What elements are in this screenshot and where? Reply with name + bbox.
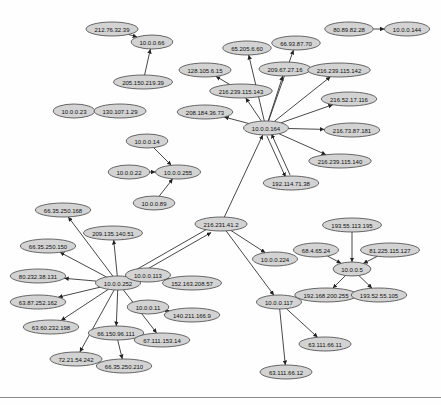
node-193-52-55-105[interactable]: 193.52.55.105 xyxy=(351,288,407,302)
node-label: 10.0.0.164 xyxy=(252,126,281,132)
node-label: 140.211.166.9 xyxy=(173,313,212,319)
node-label: 212.76.32.39 xyxy=(94,27,130,33)
edge-10-0-0-164-to-216-239-115-143 xyxy=(246,98,262,121)
node-label: 209.67.27.16 xyxy=(267,67,303,73)
node-63-60-232-198[interactable]: 63.60.232.198 xyxy=(23,320,79,334)
node-80-89-82-28[interactable]: 80.89.82.28 xyxy=(325,22,374,36)
edge-216-239-115-143-to-128-105-6-15 xyxy=(216,76,230,84)
node-label: 10.0.0.22 xyxy=(116,170,142,176)
edge-10-0-0-252-to-66-35-250-150 xyxy=(60,252,107,277)
edge-10-0-0-89-to-10-0-0-255 xyxy=(159,179,173,196)
node-10-0-0-113[interactable]: 10.0.0.113 xyxy=(126,268,171,282)
node-216-239-115-140[interactable]: 216.239.115.140 xyxy=(309,154,372,168)
node-80-232-38-131[interactable]: 80.232.38.131 xyxy=(10,269,66,283)
node-10-0-0-5[interactable]: 10.0.0.5 xyxy=(333,262,371,276)
node-208-184-36-73[interactable]: 208.184.36.73 xyxy=(177,105,233,119)
node-72-21-54-242[interactable]: 72.21.54.242 xyxy=(50,352,102,366)
edge-10-0-0-164-to-66-93-87-70 xyxy=(269,50,294,121)
edge-212-76-32-39-to-10-0-0-66 xyxy=(129,34,138,37)
node-label: 216.52.17.116 xyxy=(330,97,369,103)
edge-10-0-0-117-to-63-111-66-11 xyxy=(286,309,317,338)
node-label: 216.73.87.181 xyxy=(333,128,372,134)
node-10-0-0-255[interactable]: 10.0.0.255 xyxy=(156,165,201,179)
node-63-111-66-12[interactable]: 63.111.66.12 xyxy=(260,365,312,379)
node-label: 67.111.153.14 xyxy=(143,338,181,344)
node-193-55-113-195[interactable]: 193.55.113.195 xyxy=(323,218,382,232)
edge-205-150-219-39-to-10-0-0-66 xyxy=(145,49,151,75)
node-label: 66.150.96.111 xyxy=(97,331,135,337)
node-216-231-41-2[interactable]: 216.231.41.2 xyxy=(195,217,247,231)
edge-216-231-41-2-to-10-0-0-224 xyxy=(231,231,265,253)
node-66-35-250-168[interactable]: 66.35.250.168 xyxy=(35,203,91,217)
node-label: 63.60.232.198 xyxy=(32,325,71,331)
node-67-111-153-14[interactable]: 67.111.153.14 xyxy=(134,333,190,347)
node-192-168-200-255[interactable]: 192.168.200.255 xyxy=(295,288,358,302)
node-216-239-115-142[interactable]: 216.239.115.142 xyxy=(308,63,371,77)
edge-10-0-0-252-to-63-60-232-198 xyxy=(61,289,108,320)
node-66-35-250-210[interactable]: 66.35.250.210 xyxy=(96,359,152,373)
node-label: 80.232.38.131 xyxy=(19,274,58,280)
node-10-0-0-23[interactable]: 10.0.0.23 xyxy=(53,104,95,118)
node-68-4-65-24[interactable]: 68.4.65.24 xyxy=(294,243,339,257)
node-130-107-1-29[interactable]: 130.107.1.29 xyxy=(94,104,146,118)
node-65-205-6-60[interactable]: 65.205.6.60 xyxy=(223,41,272,55)
node-10-0-0-11[interactable]: 10.0.0.11 xyxy=(127,300,169,314)
node-81-225-115-127[interactable]: 81.225.115.127 xyxy=(361,243,420,257)
node-10-0-0-89[interactable]: 10.0.0.89 xyxy=(133,196,175,210)
node-192-114-71-38[interactable]: 192.114.71.38 xyxy=(263,176,319,190)
node-label: 63.87.252.162 xyxy=(19,300,58,306)
node-63-87-252-162[interactable]: 63.87.252.162 xyxy=(10,295,66,309)
node-216-52-17-116[interactable]: 216.52.17.116 xyxy=(321,92,377,106)
edge-10-0-0-252-to-63-87-252-162 xyxy=(58,287,100,297)
node-label: 10.0.0.117 xyxy=(265,300,294,306)
node-label: 216.239.115.140 xyxy=(318,159,363,165)
node-label: 81.225.115.127 xyxy=(369,248,411,254)
network-diagram: 212.76.32.3910.0.0.66205.150.219.3910.0.… xyxy=(0,0,441,405)
edge-10-0-0-117-to-63-111-66-12 xyxy=(280,309,286,365)
node-10-0-0-117[interactable]: 10.0.0.117 xyxy=(257,295,302,309)
node-label: 66.93.87.70 xyxy=(280,41,312,47)
node-label: 63.111.66.11 xyxy=(308,342,342,348)
node-label: 68.4.65.24 xyxy=(302,248,331,254)
node-209-67-27-16[interactable]: 209.67.27.16 xyxy=(259,62,311,76)
node-10-0-0-66[interactable]: 10.0.0.66 xyxy=(131,35,173,49)
node-152-163-208-57[interactable]: 152.163.208.57 xyxy=(163,276,222,290)
node-label: 192.114.71.38 xyxy=(272,181,311,187)
edge-66-150-96-111-to-66-35-250-210 xyxy=(118,340,123,359)
node-layer: 212.76.32.3910.0.0.66205.150.219.3910.0.… xyxy=(10,22,429,379)
node-label: 10.0.0.252 xyxy=(104,281,133,287)
edge-10-0-0-14-to-10-0-0-255 xyxy=(154,148,172,166)
node-label: 10.0.0.5 xyxy=(341,267,363,273)
node-10-0-0-224[interactable]: 10.0.0.224 xyxy=(253,252,298,266)
node-212-76-32-39[interactable]: 212.76.32.39 xyxy=(86,22,138,36)
edge-10-0-0-164-to-216-52-17-116 xyxy=(281,105,333,123)
node-66-35-250-150[interactable]: 66.35.250.150 xyxy=(20,239,76,253)
node-216-239-115-143[interactable]: 216.239.115.143 xyxy=(210,84,273,98)
node-label: 80.89.82.28 xyxy=(333,27,365,33)
node-10-0-0-144[interactable]: 10.0.0.144 xyxy=(385,22,430,36)
node-label: 63.111.66.12 xyxy=(269,370,304,376)
node-205-150-219-39[interactable]: 205.150.219.39 xyxy=(114,75,173,89)
node-10-0-0-14[interactable]: 10.0.0.14 xyxy=(126,134,168,148)
node-66-93-87-70[interactable]: 66.93.87.70 xyxy=(272,36,321,50)
node-label: 10.0.0.11 xyxy=(136,305,161,311)
node-label: 152.163.208.57 xyxy=(171,281,213,287)
node-label: 10.0.0.66 xyxy=(139,40,165,46)
edge-10-0-0-5-to-193-52-55-105 xyxy=(359,276,372,289)
node-10-0-0-22[interactable]: 10.0.0.22 xyxy=(108,165,150,179)
node-140-211-166-9[interactable]: 140.211.166.9 xyxy=(164,308,220,322)
node-128-105-6-15[interactable]: 128.105.6.15 xyxy=(179,63,231,77)
node-209-135-140-51[interactable]: 209.135.140.51 xyxy=(84,226,143,240)
node-label: 66.35.250.210 xyxy=(105,364,144,370)
node-label: 208.184.36.73 xyxy=(186,110,225,116)
node-216-73-87-181[interactable]: 216.73.87.181 xyxy=(324,123,380,137)
node-63-111-66-11[interactable]: 63.111.66.11 xyxy=(299,337,351,351)
edge-216-231-41-2-to-10-0-0-164 xyxy=(224,135,262,217)
node-label: 209.135.140.51 xyxy=(92,231,134,237)
node-label: 10.0.0.144 xyxy=(393,27,422,33)
node-label: 193.52.55.105 xyxy=(360,293,399,299)
edge-68-4-65-24-to-10-0-0-5 xyxy=(327,256,341,263)
edge-10-0-0-252-to-72-21-54-242 xyxy=(80,290,114,352)
node-10-0-0-164[interactable]: 10.0.0.164 xyxy=(244,121,289,135)
node-label: 128.105.6.15 xyxy=(187,68,223,74)
